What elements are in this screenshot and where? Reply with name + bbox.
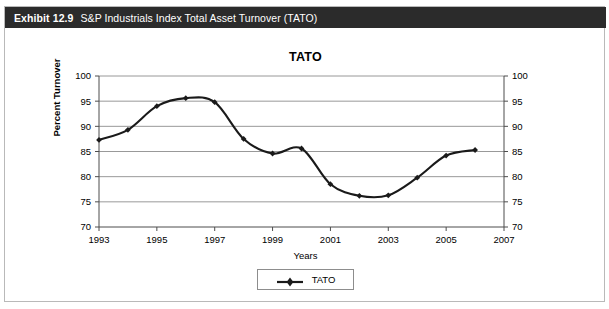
svg-text:85: 85 bbox=[512, 146, 523, 157]
svg-text:80: 80 bbox=[512, 171, 523, 182]
legend-line-marker-icon bbox=[276, 274, 304, 286]
chart-legend: TATO bbox=[257, 269, 354, 290]
svg-text:80: 80 bbox=[80, 171, 91, 182]
svg-text:85: 85 bbox=[80, 146, 91, 157]
svg-text:2007: 2007 bbox=[493, 234, 514, 245]
svg-text:70: 70 bbox=[512, 221, 523, 232]
gridlines bbox=[99, 76, 504, 227]
svg-text:90: 90 bbox=[512, 121, 523, 132]
svg-text:1995: 1995 bbox=[146, 234, 167, 245]
svg-text:95: 95 bbox=[80, 96, 91, 107]
svg-text:75: 75 bbox=[80, 196, 91, 207]
x-axis-tick-labels: 19931995199719992001200320052007 bbox=[88, 234, 514, 245]
exhibit-header: Exhibit 12.9 S&P Industrials Index Total… bbox=[5, 7, 606, 28]
series-line-tato bbox=[99, 97, 475, 197]
x-axis-ticks bbox=[99, 227, 504, 231]
x-axis-title: Years bbox=[5, 250, 606, 261]
svg-text:70: 70 bbox=[80, 221, 91, 232]
svg-text:1997: 1997 bbox=[204, 234, 225, 245]
svg-text:2001: 2001 bbox=[320, 234, 341, 245]
exhibit-caption: S&P Industrials Index Total Asset Turnov… bbox=[81, 12, 318, 24]
y-axis-tick-labels-right: 707580859095100 bbox=[512, 70, 528, 232]
svg-text:100: 100 bbox=[75, 70, 91, 81]
svg-text:100: 100 bbox=[512, 70, 528, 81]
svg-text:1999: 1999 bbox=[262, 234, 283, 245]
series-markers-tato bbox=[96, 95, 478, 198]
svg-text:2003: 2003 bbox=[378, 234, 399, 245]
exhibit-number: Exhibit 12.9 bbox=[14, 12, 74, 24]
legend-label-tato: TATO bbox=[312, 274, 336, 285]
svg-text:1993: 1993 bbox=[88, 234, 109, 245]
exhibit-figure-card: Exhibit 12.9 S&P Industrials Index Total… bbox=[4, 6, 605, 302]
svg-text:95: 95 bbox=[512, 96, 523, 107]
svg-text:75: 75 bbox=[512, 196, 523, 207]
chart-area: TATO Percent Turnover 707580859095100 70… bbox=[5, 28, 606, 302]
svg-text:2005: 2005 bbox=[436, 234, 457, 245]
y-axis-tick-labels-left: 707580859095100 bbox=[75, 70, 91, 232]
svg-text:90: 90 bbox=[80, 121, 91, 132]
